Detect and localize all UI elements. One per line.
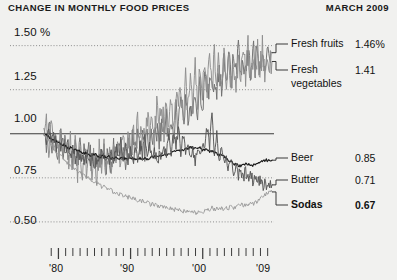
y-tick-label: 1.25 (14, 70, 37, 82)
legend-label-fresh-fruits: Fresh fruits (291, 38, 344, 50)
y-tick-label: 0.50 (14, 214, 37, 226)
y-tick-label: 1.00 (14, 112, 37, 124)
legend-leader-lines (272, 44, 288, 205)
x-tick-label: '80 (49, 262, 63, 274)
legend-label-fresh-vegetables-line1: Fresh (291, 64, 318, 76)
legend-label-fresh-vegetables-line2: vegetables (291, 78, 342, 90)
x-tick-label: '09 (256, 262, 270, 274)
y-tick-label: 1.50 % (14, 26, 50, 38)
legend-label-beer: Beer (291, 152, 313, 164)
x-tick-label: '00 (192, 262, 206, 274)
y-tick-label: 0.75 (14, 164, 37, 176)
chart-figure: CHANGE IN MONTHLY FOOD PRICES MARCH 2009… (0, 0, 397, 280)
x-tick-label: '90 (120, 262, 134, 274)
legend-value-beer: 0.85 (355, 152, 375, 164)
legend-value-fresh-vegetables: 1.41 (355, 64, 375, 76)
legend-value-butter: 0.71 (355, 174, 375, 186)
legend-label-butter: Butter (291, 174, 319, 186)
series-lines (44, 35, 272, 214)
legend-label-sodas: Sodas (291, 199, 323, 211)
legend-value-sodas: 0.67 (355, 199, 375, 211)
legend-value-fresh-fruits: 1.46% (355, 38, 385, 50)
x-axis-ticks (51, 248, 267, 259)
